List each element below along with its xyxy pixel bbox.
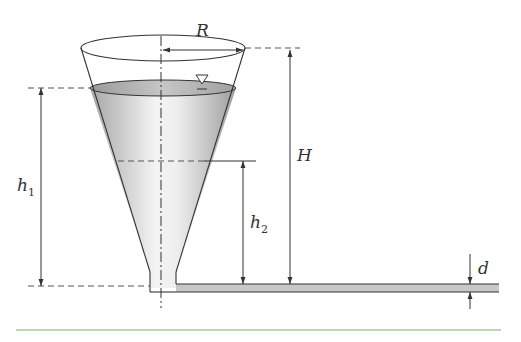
svg-text:H: H	[296, 145, 313, 165]
dimension-pipe-diameter: d	[470, 254, 489, 309]
svg-text:d: d	[478, 258, 489, 278]
dimension-total-height: H	[290, 50, 313, 284]
outlet-pipe	[176, 284, 499, 292]
funnel-tank-diagram: R h1 h2 H d	[0, 0, 521, 342]
svg-text:R: R	[195, 20, 209, 40]
svg-text:h2: h2	[250, 212, 268, 236]
dimension-h2: h2	[243, 161, 268, 284]
liquid-body	[90, 80, 236, 288]
dimension-h1: h1	[17, 88, 41, 286]
svg-text:h1: h1	[17, 175, 35, 199]
